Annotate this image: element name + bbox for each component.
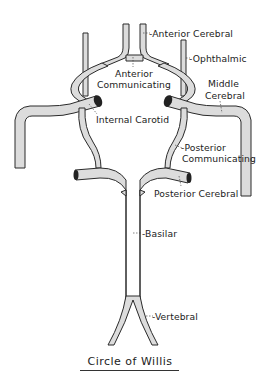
left-middle-cerebral: [15, 94, 104, 168]
label-internal-carotid: Internal Carotid: [96, 114, 169, 125]
label-posterior-cerebral: Posterior Cerebral: [154, 188, 238, 199]
label-vertebral: -Vertebral: [152, 311, 198, 322]
label-anterior-communicating-line1: Anterior: [110, 68, 158, 79]
label-posterior-communicating-line2: Communicating: [182, 153, 256, 164]
label-ophthalmic: -Ophthalmic: [189, 53, 247, 64]
label-middle-cerebral-line1: Middle: [208, 78, 239, 89]
title-underline: [80, 370, 179, 371]
label-posterior-communicating-line1: -Posterior: [181, 142, 226, 153]
label-basilar: -Basilar: [142, 228, 177, 239]
label-middle-cerebral-line2: Cerebral: [205, 90, 245, 101]
vertebral-vessels: [108, 296, 158, 345]
label-anterior-communicating-line2: Communicating: [97, 79, 171, 90]
diagram-title: Circle of Willis: [80, 355, 180, 368]
label-anterior-cerebral: -Anterior Cerebral: [149, 28, 233, 39]
